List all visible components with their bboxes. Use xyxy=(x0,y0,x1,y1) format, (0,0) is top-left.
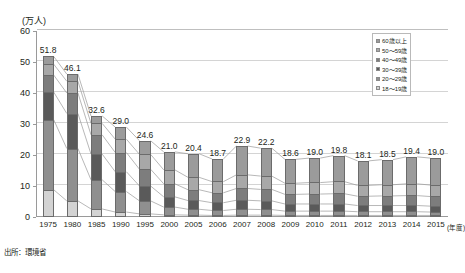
bar-value-label: 20.4 xyxy=(185,143,202,153)
x-axis-tick-label: 2005 xyxy=(185,220,203,229)
legend-item[interactable]: 60歳以上 xyxy=(376,36,407,46)
y-axis-tick-label: 10 xyxy=(0,181,30,191)
x-axis-tick-label: 1975 xyxy=(39,220,57,229)
legend-swatch-icon xyxy=(376,77,380,81)
legend-item[interactable]: 30～39歳 xyxy=(376,65,407,75)
bar-value-label: 22.2 xyxy=(258,137,275,147)
legend-item[interactable]: 50～59歳 xyxy=(376,46,407,56)
x-axis-tick-label: 2010 xyxy=(306,220,324,229)
legend-item-label: 40～49歳 xyxy=(382,55,407,64)
chart-legend: 60歳以上50～59歳40～49歳30～39歳20～29歳18～19歳 xyxy=(372,33,411,96)
x-axis-tick-label: 2012 xyxy=(354,220,372,229)
bar-value-label: 21.0 xyxy=(161,141,178,151)
bar-value-label: 18.1 xyxy=(355,150,372,160)
x-axis-tick-label: 2011 xyxy=(330,220,347,229)
source-note: 出所：環境省 xyxy=(4,246,46,257)
legend-item-label: 50～59歳 xyxy=(382,46,407,55)
y-axis-tick-label: 0 xyxy=(0,212,30,222)
legend-item-label: 30～39歳 xyxy=(382,65,407,74)
legend-swatch-icon xyxy=(376,67,380,71)
bar-value-label: 19.0 xyxy=(306,147,323,157)
bar-value-label: 19.0 xyxy=(428,147,445,157)
y-axis-tick-label: 40 xyxy=(0,88,30,98)
x-axis-tick-label: 2006 xyxy=(209,220,227,229)
x-axis-tick-label: 2014 xyxy=(403,220,421,229)
x-axis-tick-label: 1995 xyxy=(136,220,154,229)
x-axis-tick-label: 2013 xyxy=(379,220,397,229)
bar-value-label: 19.4 xyxy=(403,146,420,156)
legend-item-label: 20～29歳 xyxy=(382,74,407,83)
y-axis-tick-label: 30 xyxy=(0,119,30,129)
bar-value-label: 46.1 xyxy=(64,63,81,73)
x-axis-tick-label: 1990 xyxy=(112,220,130,229)
bar-value-label: 18.5 xyxy=(379,149,396,159)
bar-value-label: 51.8 xyxy=(40,45,57,55)
x-axis-tick-label: 2007 xyxy=(233,220,251,229)
legend-item-label: 60歳以上 xyxy=(382,36,407,45)
bar-value-label: 18.7 xyxy=(209,148,226,158)
legend-swatch-icon xyxy=(376,48,380,52)
legend-swatch-icon xyxy=(376,58,380,62)
bar-value-label: 22.9 xyxy=(234,135,251,145)
legend-swatch-icon xyxy=(376,86,380,90)
x-axis-tick-label: 2000 xyxy=(160,220,178,229)
x-axis-tick-label: 2008 xyxy=(257,220,275,229)
y-axis-tick-label: 20 xyxy=(0,150,30,160)
legend-item[interactable]: 40～49歳 xyxy=(376,55,407,65)
y-axis-tick-label: 50 xyxy=(0,57,30,67)
legend-item[interactable]: 20～29歳 xyxy=(376,74,407,84)
x-axis-unit-label: (年度) xyxy=(447,222,465,232)
bar-value-label: 29.0 xyxy=(113,116,130,126)
x-axis-tick-label: 1980 xyxy=(63,220,81,229)
bar-value-label: 18.6 xyxy=(282,148,299,158)
legend-item[interactable]: 18～19歳 xyxy=(376,84,407,94)
legend-swatch-icon xyxy=(376,39,380,43)
y-axis-tick-label: 60 xyxy=(0,26,30,36)
bar-value-label: 32.6 xyxy=(88,105,105,115)
bar-value-label: 24.6 xyxy=(137,130,154,140)
y-axis-tick-mark xyxy=(33,217,36,218)
bar-value-label: 19.8 xyxy=(331,145,348,155)
x-axis-tick-label: 2015 xyxy=(427,220,445,229)
x-axis-tick-label: 1985 xyxy=(88,220,106,229)
legend-item-label: 18～19歳 xyxy=(382,84,407,93)
gridline xyxy=(37,29,448,30)
x-axis-tick-label: 2009 xyxy=(282,220,300,229)
